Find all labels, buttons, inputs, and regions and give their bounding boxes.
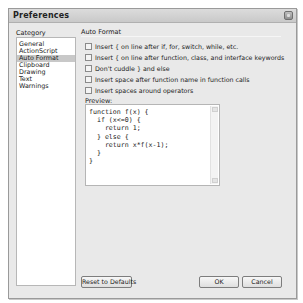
scroll-up-arrow-icon[interactable] — [212, 107, 218, 112]
window-title: Preferences — [13, 11, 69, 20]
preferences-dialog: Preferences Category General ActionScrip… — [8, 8, 297, 299]
ok-button[interactable]: OK — [199, 276, 239, 288]
checkbox[interactable] — [85, 87, 92, 94]
checkbox[interactable] — [85, 43, 92, 50]
preview-box: function f(x) { if (x<=0) { return 1; } … — [85, 104, 220, 186]
option-label: Insert { on line after if, for, switch, … — [95, 43, 238, 50]
option-label: Insert space after function name in func… — [95, 76, 250, 83]
preview-code: function f(x) { if (x<=0) { return 1; } … — [89, 108, 168, 165]
checkbox[interactable] — [85, 76, 92, 83]
option-label: Insert { on line after function, class, … — [95, 54, 284, 61]
option-dont-cuddle[interactable]: Don't cuddle } and else — [85, 64, 170, 72]
option-brace-after-control[interactable]: Insert { on line after if, for, switch, … — [85, 42, 238, 50]
section-title: Auto Format — [81, 28, 121, 36]
option-brace-after-function[interactable]: Insert { on line after function, class, … — [85, 53, 284, 61]
option-label: Don't cuddle } and else — [95, 65, 170, 72]
option-label: Insert spaces around operators — [95, 87, 193, 94]
scroll-down-arrow-icon[interactable] — [212, 178, 218, 183]
checkbox[interactable] — [85, 54, 92, 61]
preview-scrollbar[interactable] — [210, 106, 218, 184]
title-bar[interactable]: Preferences — [9, 9, 296, 23]
checkbox[interactable] — [85, 65, 92, 72]
option-spaces-around-operators[interactable]: Insert spaces around operators — [85, 86, 193, 94]
close-button[interactable] — [284, 11, 293, 20]
cancel-button[interactable]: Cancel — [242, 276, 282, 288]
option-space-after-function-name[interactable]: Insert space after function name in func… — [85, 75, 250, 83]
reset-to-defaults-button[interactable]: Reset to Defaults — [81, 276, 132, 288]
category-header: Category — [16, 29, 46, 37]
category-list[interactable]: General ActionScript Auto Format Clipboa… — [16, 37, 76, 286]
sidebar-item-warnings[interactable]: Warnings — [17, 83, 75, 90]
section-divider — [81, 36, 281, 37]
